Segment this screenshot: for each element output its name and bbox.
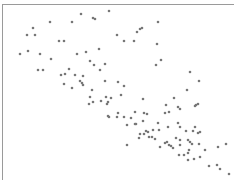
data-point bbox=[106, 103, 109, 106]
data-point bbox=[146, 113, 149, 116]
data-point bbox=[198, 143, 201, 146]
data-point bbox=[164, 112, 167, 115]
data-point bbox=[63, 83, 66, 86]
data-point bbox=[133, 40, 136, 43]
data-point bbox=[208, 165, 211, 168]
data-point bbox=[108, 10, 111, 13]
data-point bbox=[148, 136, 151, 139]
data-point bbox=[71, 87, 74, 90]
data-point bbox=[142, 98, 145, 101]
data-point bbox=[175, 137, 178, 140]
data-point bbox=[156, 43, 159, 46]
data-point bbox=[134, 111, 137, 114]
data-point bbox=[93, 64, 96, 67]
data-point bbox=[187, 139, 190, 142]
data-point bbox=[160, 59, 163, 62]
data-point bbox=[116, 34, 119, 37]
data-point bbox=[143, 133, 146, 136]
data-point bbox=[37, 69, 40, 72]
data-point bbox=[228, 173, 231, 176]
data-point bbox=[165, 104, 168, 107]
scatter-chart bbox=[0, 0, 234, 180]
data-point bbox=[170, 145, 173, 148]
data-point bbox=[159, 146, 162, 149]
data-point bbox=[186, 89, 189, 92]
data-point bbox=[138, 137, 141, 140]
data-point bbox=[136, 31, 139, 34]
data-point bbox=[89, 96, 92, 99]
data-point bbox=[179, 139, 182, 142]
data-point bbox=[145, 130, 148, 133]
data-point bbox=[179, 126, 182, 129]
data-point bbox=[79, 80, 82, 83]
data-point bbox=[63, 40, 66, 43]
data-point bbox=[117, 112, 120, 115]
data-point bbox=[157, 122, 160, 125]
data-point bbox=[192, 130, 195, 133]
data-point bbox=[139, 133, 142, 136]
data-point bbox=[76, 53, 79, 56]
data-point bbox=[126, 124, 129, 127]
data-point bbox=[19, 53, 22, 56]
data-point bbox=[134, 123, 137, 126]
data-point bbox=[179, 144, 182, 147]
data-point bbox=[88, 103, 91, 106]
data-point bbox=[68, 68, 71, 71]
data-point bbox=[216, 164, 219, 167]
data-point bbox=[178, 154, 181, 157]
data-point bbox=[92, 101, 95, 104]
data-point bbox=[99, 69, 102, 72]
data-point bbox=[177, 122, 180, 125]
data-point bbox=[189, 141, 192, 144]
data-point bbox=[185, 130, 188, 133]
data-point bbox=[104, 80, 107, 83]
data-point bbox=[141, 27, 144, 30]
data-point bbox=[172, 147, 175, 150]
data-point bbox=[194, 126, 197, 129]
data-point bbox=[49, 21, 52, 24]
data-point bbox=[82, 75, 85, 78]
data-point bbox=[105, 96, 108, 99]
data-point bbox=[204, 149, 207, 152]
data-point bbox=[154, 138, 157, 141]
data-point bbox=[117, 81, 120, 84]
data-point bbox=[167, 126, 170, 129]
data-point bbox=[60, 74, 63, 77]
data-point bbox=[120, 94, 123, 97]
data-point bbox=[179, 108, 182, 111]
data-point bbox=[151, 136, 154, 139]
data-point bbox=[123, 40, 126, 43]
data-point bbox=[42, 69, 45, 72]
data-point bbox=[225, 143, 228, 146]
data-point bbox=[123, 85, 126, 88]
data-point bbox=[168, 111, 171, 114]
data-point bbox=[85, 51, 88, 54]
data-point bbox=[130, 117, 133, 120]
data-point bbox=[217, 146, 220, 149]
data-point bbox=[193, 158, 196, 161]
data-point bbox=[91, 89, 94, 92]
data-point bbox=[123, 116, 126, 119]
data-point bbox=[194, 105, 197, 108]
data-point bbox=[173, 97, 176, 100]
data-point bbox=[32, 27, 35, 30]
data-point bbox=[191, 143, 194, 146]
data-point bbox=[199, 131, 202, 134]
data-point bbox=[71, 21, 74, 24]
data-point bbox=[199, 156, 202, 159]
data-point bbox=[116, 116, 119, 119]
data-point bbox=[34, 34, 37, 37]
data-point bbox=[187, 152, 190, 155]
data-point bbox=[98, 48, 101, 51]
data-point bbox=[183, 154, 186, 157]
data-point bbox=[80, 13, 83, 16]
data-point bbox=[74, 74, 77, 77]
data-point bbox=[158, 129, 161, 132]
data-point bbox=[219, 168, 222, 171]
data-point bbox=[110, 97, 113, 100]
data-point bbox=[27, 50, 30, 53]
data-point bbox=[89, 60, 92, 63]
data-point bbox=[26, 34, 29, 37]
data-point bbox=[157, 21, 160, 24]
data-point bbox=[143, 112, 146, 115]
